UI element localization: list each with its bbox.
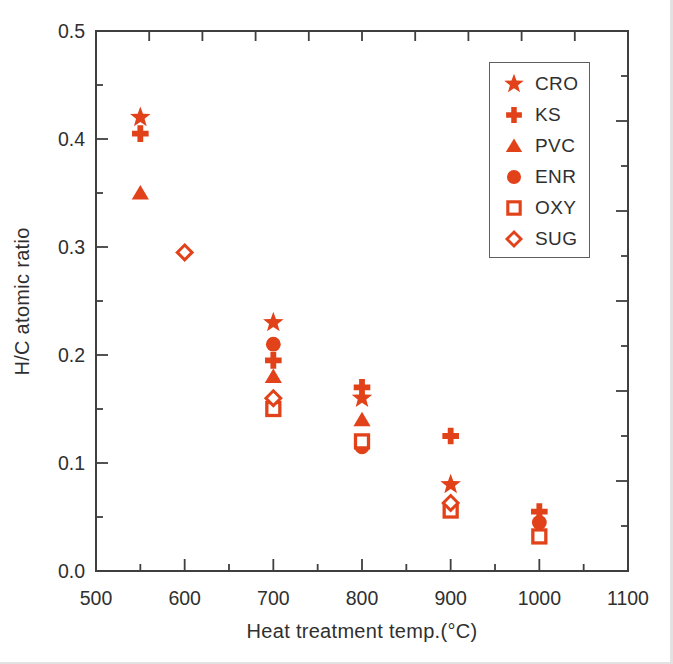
data-point-OXY-1000: [533, 530, 546, 543]
legend-item-OXY: OXY: [501, 192, 589, 223]
data-point-PVC-800: [353, 412, 370, 426]
x-tick-label: 700: [257, 587, 290, 609]
legend-item-SUG: SUG: [501, 223, 589, 254]
star-marker-icon: [501, 72, 527, 96]
x-tick-label: 1000: [518, 587, 562, 609]
data-point-KS-900: [442, 428, 459, 445]
diamond-marker-icon: [507, 231, 521, 245]
legend-label-KS: KS: [535, 104, 561, 126]
legend-item-KS: KS: [501, 99, 589, 130]
triangle-marker-icon: [506, 138, 522, 152]
legend-label-OXY: OXY: [535, 197, 576, 219]
data-point-ENR-700: [266, 337, 281, 352]
legend-label-ENR: ENR: [535, 166, 576, 188]
x-tick-label: 900: [434, 587, 467, 609]
square-marker-icon: [501, 196, 527, 220]
data-point-PVC-700: [265, 369, 282, 383]
legend-item-CRO: CRO: [501, 68, 589, 99]
legend-item-PVC: PVC: [501, 130, 589, 161]
data-point-ENR-1000: [532, 515, 547, 530]
figure-page: 500600700800900100011000.50.40.30.20.10.…: [0, 0, 673, 664]
y-tick-label: 0.2: [58, 344, 85, 366]
triangle-marker-icon: [501, 134, 527, 158]
circle-marker-icon: [507, 169, 521, 183]
data-point-CRO-900: [440, 474, 461, 494]
data-point-SUG-600: [177, 245, 192, 260]
data-point-KS-550: [132, 125, 149, 142]
plus-marker-icon: [506, 107, 522, 123]
y-tick-label: 0.1: [58, 452, 85, 474]
legend-label-SUG: SUG: [535, 228, 577, 250]
data-point-CRO-550: [130, 107, 151, 127]
legend-item-ENR: ENR: [501, 161, 589, 192]
circle-marker-icon: [501, 165, 527, 189]
data-point-KS-700: [265, 352, 282, 369]
x-tick-label: 600: [168, 587, 201, 609]
diamond-marker-icon: [501, 227, 527, 251]
y-axis-title: H/C atomic ratio: [11, 222, 34, 382]
legend-label-PVC: PVC: [535, 135, 575, 157]
data-point-KS-800: [354, 379, 371, 396]
legend: CROKSPVCENROXYSUG: [489, 62, 590, 258]
y-tick-label: 0.0: [58, 560, 85, 582]
data-point-PVC-550: [132, 185, 149, 199]
x-tick-label: 800: [346, 587, 379, 609]
y-tick-label: 0.5: [58, 20, 85, 42]
square-marker-icon: [508, 201, 520, 213]
data-point-OXY-800: [356, 435, 369, 448]
data-point-CRO-700: [263, 312, 284, 332]
x-axis-title: Heat treatment temp.(°C): [96, 620, 628, 643]
star-marker-icon: [504, 73, 524, 92]
plus-marker-icon: [501, 103, 527, 127]
y-tick-label: 0.3: [58, 236, 85, 258]
x-tick-label: 1100: [607, 587, 649, 609]
legend-label-CRO: CRO: [535, 73, 578, 95]
x-tick-label: 500: [80, 587, 113, 609]
y-tick-label: 0.4: [58, 128, 85, 150]
